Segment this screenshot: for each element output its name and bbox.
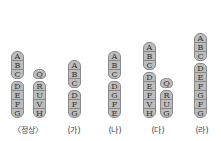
gene-D: D: [69, 91, 80, 100]
gene-A: A: [109, 52, 120, 61]
short-arm: ABC: [11, 51, 24, 79]
gene-B: B: [69, 70, 80, 79]
long-arm: DEFGFG: [194, 63, 207, 118]
gene-C: C: [109, 70, 120, 79]
chromosome: QRUG: [160, 78, 173, 118]
gene-G: G: [195, 91, 206, 100]
gene-D: D: [109, 82, 120, 91]
chromosome: ABCDEFGFG: [194, 33, 207, 118]
gene-U: U: [34, 91, 45, 100]
gene-D: D: [144, 73, 155, 82]
long-arm: RUVH: [33, 81, 46, 118]
gene-F: F: [144, 91, 155, 100]
gene-Q: Q: [34, 70, 45, 79]
gene-D: D: [195, 64, 206, 73]
gene-B: B: [144, 52, 155, 61]
gene-D: D: [12, 82, 23, 91]
short-arm: ABC: [194, 33, 207, 61]
gene-B: B: [109, 61, 120, 70]
gene-E: E: [195, 73, 206, 82]
long-arm: DFG: [68, 90, 81, 118]
gene-F: F: [69, 100, 80, 109]
chromosome: ABCDGFE: [108, 51, 121, 118]
gene-R: R: [34, 82, 45, 91]
gene-C: C: [144, 61, 155, 70]
gene-E: E: [109, 109, 120, 118]
gene-F: F: [12, 100, 23, 109]
gene-F: F: [195, 100, 206, 109]
gene-C: C: [69, 79, 80, 88]
gene-A: A: [69, 61, 80, 70]
long-arm: RUG: [160, 90, 173, 118]
long-arm: DEFVH: [143, 72, 156, 118]
panel-label-ga: (가): [67, 124, 80, 135]
chromosome: ABCDFG: [68, 60, 81, 118]
chromosome: ABCDEFG: [11, 51, 24, 118]
short-arm: Q: [160, 78, 173, 88]
gene-F: F: [109, 100, 120, 109]
panel-label-ra: (라): [195, 124, 208, 135]
gene-B: B: [195, 43, 206, 52]
gene-H: H: [144, 109, 155, 118]
gene-A: A: [144, 43, 155, 52]
gene-G: G: [69, 109, 80, 118]
gene-C: C: [195, 52, 206, 61]
gene-F: F: [195, 82, 206, 91]
gene-G: G: [12, 109, 23, 118]
panel-label-na: (나): [108, 124, 121, 135]
gene-E: E: [144, 82, 155, 91]
panel-label-da: (다): [151, 124, 164, 135]
gene-A: A: [12, 52, 23, 61]
gene-Q: Q: [161, 79, 172, 88]
gene-R: R: [161, 91, 172, 100]
chromosome: QRUVH: [33, 69, 46, 118]
panel-label-normal: 〈정상〉: [13, 124, 43, 135]
gene-V: V: [34, 100, 45, 109]
gene-A: A: [195, 34, 206, 43]
short-arm: Q: [33, 69, 46, 79]
gene-G: G: [161, 109, 172, 118]
gene-G: G: [109, 91, 120, 100]
gene-B: B: [12, 61, 23, 70]
short-arm: ABC: [108, 51, 121, 79]
gene-G: G: [195, 109, 206, 118]
gene-H: H: [34, 109, 45, 118]
gene-E: E: [12, 91, 23, 100]
gene-V: V: [144, 100, 155, 109]
long-arm: DEFG: [11, 81, 24, 118]
short-arm: ABC: [68, 60, 81, 88]
gene-C: C: [12, 70, 23, 79]
short-arm: ABC: [143, 42, 156, 70]
gene-U: U: [161, 100, 172, 109]
long-arm: DGFE: [108, 81, 121, 118]
chromosome: ABCDEFVH: [143, 42, 156, 118]
